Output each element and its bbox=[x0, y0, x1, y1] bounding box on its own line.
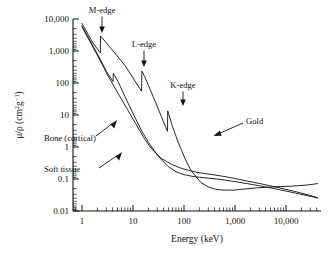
y-tick-label: 0.01 bbox=[53, 206, 69, 216]
bone-cortical-arrowhead bbox=[111, 120, 117, 128]
y-axis-title-main: μ/ρ (cm bbox=[14, 109, 25, 139]
soft-tissue-label: Soft tissue bbox=[44, 164, 80, 174]
x-tick-label: 1 bbox=[80, 216, 85, 226]
y-axis-title-sup-minus1: −1 bbox=[13, 94, 20, 101]
figure-container: 10,000 1,000 100 10 1 0.1 0.01 1 10 100 … bbox=[0, 0, 335, 258]
attenuation-plot: 10,000 1,000 100 10 1 0.1 0.01 1 10 100 … bbox=[0, 0, 335, 258]
k-edge-arrowhead bbox=[180, 100, 186, 107]
l-edge-label: L-edge bbox=[132, 39, 157, 49]
y-tick-label: 10 bbox=[60, 110, 70, 120]
y-tick-labels: 10,000 1,000 100 10 1 0.1 0.01 bbox=[44, 14, 69, 216]
annotation-m-edge: M-edge bbox=[89, 5, 116, 33]
curve-gold bbox=[82, 23, 318, 190]
y-tick-label: 0.1 bbox=[58, 174, 69, 184]
annotation-soft-tissue: Soft tissue bbox=[44, 152, 122, 174]
y-tick-label: 1 bbox=[65, 142, 70, 152]
svg-text:μ/ρ (cm2g−1): μ/ρ (cm2g−1) bbox=[13, 91, 25, 139]
annotation-k-edge: K-edge bbox=[170, 80, 195, 106]
curve-bone-cortical bbox=[82, 26, 318, 198]
y-tick-label: 10,000 bbox=[44, 14, 69, 24]
annotation-l-edge: L-edge bbox=[132, 39, 157, 67]
curve-soft-tissue bbox=[82, 27, 318, 198]
x-tick-label: 1,000 bbox=[225, 216, 246, 226]
y-axis-title-close: ) bbox=[14, 91, 25, 94]
l-edge-arrowhead bbox=[141, 61, 147, 68]
m-edge-label: M-edge bbox=[89, 5, 116, 15]
m-edge-arrowhead bbox=[99, 27, 105, 34]
k-edge-label: K-edge bbox=[170, 80, 195, 90]
soft-tissue-arrowhead bbox=[116, 152, 122, 160]
x-tick-label: 10,000 bbox=[274, 216, 299, 226]
y-tick-label: 100 bbox=[56, 78, 70, 88]
bone-cortical-label: Bone (cortical) bbox=[44, 133, 96, 143]
x-tick-label: 10 bbox=[129, 216, 139, 226]
annotation-gold: Gold bbox=[214, 116, 264, 136]
y-tick-label: 1,000 bbox=[49, 46, 70, 56]
x-axis-title: Energy (keV) bbox=[171, 234, 223, 245]
y-axis-title: μ/ρ (cm2g−1) bbox=[13, 91, 25, 139]
x-tick-labels: 1 10 100 1,000 10,000 bbox=[80, 216, 299, 226]
gold-arrowhead bbox=[214, 131, 222, 136]
annotation-bone-cortical: Bone (cortical) bbox=[44, 120, 117, 143]
x-tick-label: 100 bbox=[177, 216, 191, 226]
gold-label: Gold bbox=[246, 116, 264, 126]
